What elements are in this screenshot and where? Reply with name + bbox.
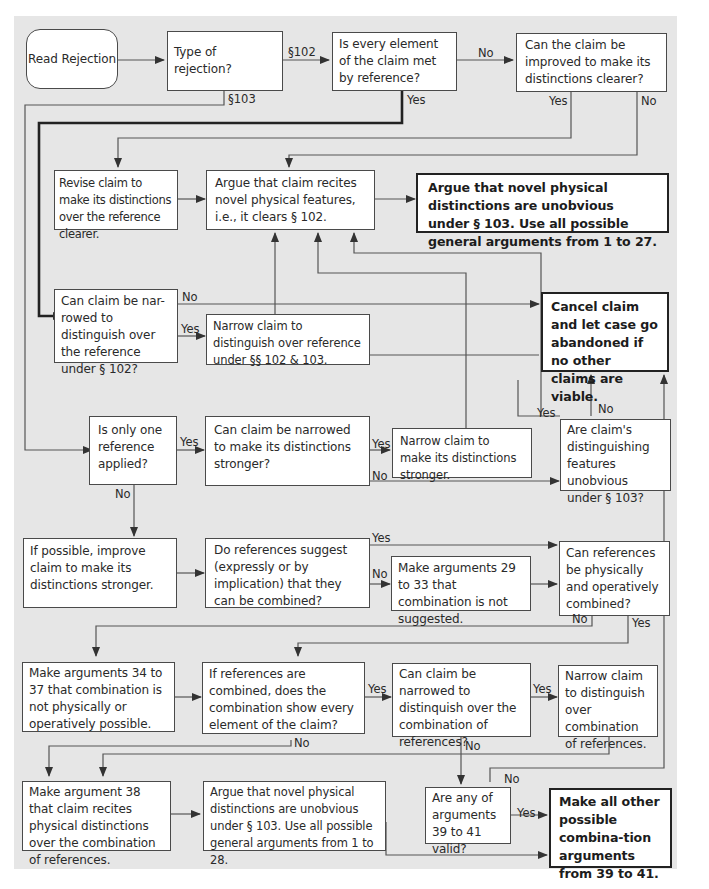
read-rejection-node[interactable]: Read Rejection (26, 29, 118, 89)
edge-label-clearer-yes: Yes (549, 95, 568, 107)
edge-label-narrow102-yes: Yes (181, 323, 200, 335)
features-unobvious-node[interactable]: Are claim's distinguishing features unob… (560, 419, 671, 491)
narrow-over-combination-q-node[interactable]: Can claim be narrowed to distinquish ove… (392, 663, 531, 737)
narrow-102-103-node[interactable]: Narrow claim to distinguish over referen… (206, 314, 370, 365)
edge-label-s102: §102 (288, 46, 316, 58)
edge-label-suggest-no: No (372, 568, 388, 580)
improve-claim-stronger-node[interactable]: If possible, improve claim to make its d… (23, 538, 177, 608)
args-39-41-valid-node[interactable]: Are any of arguments 39 to 41 valid? (425, 787, 511, 844)
can-narrow-102-node[interactable]: Can claim be nar-rowed to distinguish ov… (54, 289, 178, 363)
only-one-reference-node[interactable]: Is only one reference applied? (89, 416, 177, 485)
edge-label-unobv-yes: Yes (537, 407, 556, 419)
narrow-over-combination-node[interactable]: Narrow claim to distinguish over combina… (558, 665, 658, 737)
edge-label-narrowcomb-no: No (465, 740, 481, 752)
argue-novel-features-node[interactable]: Argue that claim recites novel physical … (206, 170, 375, 230)
combination-shows-every-node[interactable]: If references are combined, does the com… (202, 662, 365, 734)
edge-label-onlyone-no: No (115, 488, 131, 500)
can-improve-clearer-node[interactable]: Can the claim be improved to make its di… (516, 33, 667, 92)
edge-label-narrow102-no: No (182, 291, 198, 303)
argument-38-node[interactable]: Make argument 38 that claim recites phys… (22, 781, 171, 851)
args-29-33-node[interactable]: Make arguments 29 to 33 that combination… (391, 556, 531, 611)
edge-label-s103: §103 (228, 93, 256, 105)
edge-label-physical-no: No (572, 613, 588, 625)
type-of-rejection-node[interactable]: Type of rejection? (167, 31, 283, 91)
edge-label-narrowcomb-yes: Yes (533, 683, 552, 695)
make-combination-args-node[interactable]: Make all other possible combina-tion arg… (549, 788, 672, 868)
edge-label-every-no: No (478, 47, 494, 59)
edge-label-stronger-yes: Yes (372, 438, 391, 450)
edge-label-every-yes: Yes (407, 94, 426, 106)
revise-claim-node[interactable]: Revise claim to make its distinctions ov… (54, 170, 178, 230)
edge-label-clearer-no: No (641, 95, 657, 107)
edge-label-valid-no: No (504, 773, 520, 785)
edge-label-showevery-yes: Yes (368, 683, 387, 695)
edge-label-physical-yes: Yes (632, 617, 651, 629)
edge-label-stronger-no: No (372, 470, 388, 482)
edge-label-suggest-yes: Yes (372, 532, 391, 544)
every-element-met-node[interactable]: Is every element of the claim met by ref… (332, 32, 457, 91)
refs-suggest-combined-node[interactable]: Do references suggest (expressly or by i… (205, 538, 370, 608)
argue-unobvious-103-node[interactable]: Argue that novel physical distinctions a… (416, 173, 669, 233)
edge-label-valid-yes: Yes (517, 807, 536, 819)
args-34-37-node[interactable]: Make arguments 34 to 37 that combination… (22, 662, 175, 732)
edge-label-showevery-no: No (294, 737, 310, 749)
edge-label-onlyone-yes: Yes (180, 436, 199, 448)
narrow-stronger-node[interactable]: Narrow claim to make its distinctions st… (392, 428, 532, 478)
can-narrow-stronger-node[interactable]: Can claim be narrowed to make its distin… (205, 416, 370, 486)
cancel-claim-node[interactable]: Cancel claim and let case go abandoned i… (541, 292, 669, 372)
edge-label-unobv-no: No (598, 403, 614, 415)
refs-physically-combined-node[interactable]: Can references be physically and operati… (559, 541, 670, 616)
argue-unobvious-1-28-node[interactable]: Argue that novel physical distinctions a… (203, 781, 386, 851)
